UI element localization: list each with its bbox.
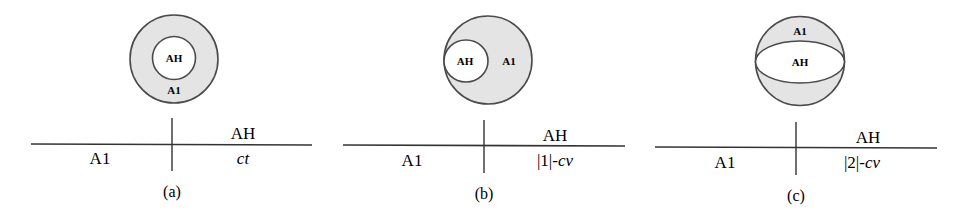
inner-label: AH bbox=[166, 52, 183, 64]
caption-a: (a) bbox=[163, 183, 181, 201]
left-label: A1 bbox=[715, 153, 736, 172]
cross-table-b: AH A1 |1|-cv bbox=[343, 120, 625, 173]
left-label: A1 bbox=[90, 149, 111, 168]
inner-label: AH bbox=[792, 56, 809, 68]
outer-label: A1 bbox=[502, 55, 515, 67]
figure: AH A1 AH A1 ct (a) AH A1 AH A1 |1|-cv (b… bbox=[0, 0, 966, 216]
caption-b: (b) bbox=[475, 185, 494, 203]
cross-table-c: AH A1 |2|-cv bbox=[655, 122, 937, 175]
right-top-label: AH bbox=[856, 128, 881, 147]
right-top-label: AH bbox=[231, 124, 256, 143]
cross-table-a: AH A1 ct bbox=[31, 118, 312, 171]
panel-c: AH A1 AH A1 |2|-cv (c) bbox=[655, 17, 937, 206]
outer-label: A1 bbox=[793, 25, 806, 37]
right-bottom-label: |1|-cv bbox=[537, 151, 574, 170]
venn-diagram-c: AH A1 bbox=[756, 17, 845, 106]
inner-label: AH bbox=[457, 55, 474, 67]
outer-label: A1 bbox=[167, 84, 180, 96]
left-label: A1 bbox=[402, 151, 423, 170]
right-bottom-label: ct bbox=[237, 149, 251, 168]
right-bottom-label: |2|-cv bbox=[844, 153, 881, 172]
venn-diagram-b: AH A1 bbox=[444, 16, 532, 104]
panel-a: AH A1 AH A1 ct (a) bbox=[31, 15, 312, 201]
venn-diagram-a: AH A1 bbox=[130, 15, 218, 103]
panel-b: AH A1 AH A1 |1|-cv (b) bbox=[343, 16, 625, 203]
right-top-label: AH bbox=[543, 126, 568, 145]
caption-c: (c) bbox=[787, 187, 805, 205]
